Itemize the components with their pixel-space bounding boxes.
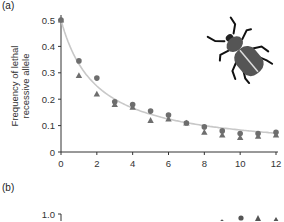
data-point-circle xyxy=(148,108,154,114)
y-axis-label: Frequency of lethalrecessive allele xyxy=(9,46,31,127)
panel-b-data-point xyxy=(238,215,243,220)
y-tick-label: 0.1 xyxy=(42,120,55,131)
x-tick-label: 2 xyxy=(94,158,99,169)
data-point-circle xyxy=(94,75,100,81)
svg-text:recessive allele: recessive allele xyxy=(20,54,31,119)
data-point-triangle xyxy=(147,117,153,123)
chart-panel-a: 00.10.20.30.40.5024681012Frequency of le… xyxy=(0,0,284,221)
x-tick-label: 6 xyxy=(166,158,171,169)
y-tick-label: 0 xyxy=(50,147,55,158)
data-point-triangle xyxy=(201,129,207,135)
x-tick-label: 10 xyxy=(235,158,246,169)
beetle-icon xyxy=(203,12,277,88)
x-tick-label: 0 xyxy=(58,158,63,169)
panel-b-data-point xyxy=(255,215,261,221)
panel-b-y-tick-label: 1.0 xyxy=(42,209,55,220)
y-tick-label: 0.2 xyxy=(42,94,55,105)
panel-b-data-point xyxy=(221,220,224,222)
x-tick-label: 12 xyxy=(271,158,282,169)
x-tick-label: 8 xyxy=(202,158,207,169)
data-point-circle xyxy=(202,124,208,130)
panel-b-data-point xyxy=(273,217,279,221)
data-point-circle xyxy=(76,58,82,64)
y-tick-label: 0.4 xyxy=(42,41,55,52)
data-point-triangle xyxy=(94,91,100,97)
svg-text:Frequency of lethal: Frequency of lethal xyxy=(9,46,20,127)
y-tick-label: 0.5 xyxy=(42,15,55,26)
data-point-triangle xyxy=(76,72,82,78)
x-tick-label: 4 xyxy=(130,158,135,169)
y-tick-label: 0.3 xyxy=(42,67,55,78)
